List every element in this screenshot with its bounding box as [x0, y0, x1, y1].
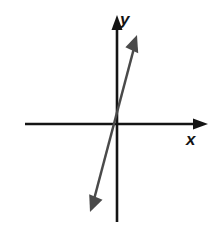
plotted-line-arrowhead-upper-icon	[125, 35, 138, 53]
x-axis-label: x	[186, 131, 195, 148]
y-axis-label: y	[120, 11, 129, 28]
graph-canvas	[0, 0, 222, 235]
y-axis	[112, 15, 123, 222]
coordinate-plane-figure: y x	[0, 0, 222, 235]
x-axis-arrowhead-icon	[193, 119, 208, 130]
